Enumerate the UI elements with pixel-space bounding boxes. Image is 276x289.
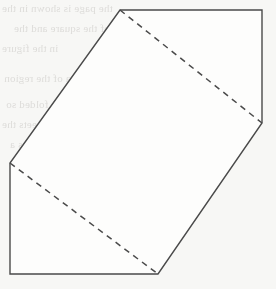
figure-page: the page is shown in theof the square an… xyxy=(0,0,276,289)
geometry-figure xyxy=(0,0,276,289)
figure-outline-fill xyxy=(10,10,262,274)
